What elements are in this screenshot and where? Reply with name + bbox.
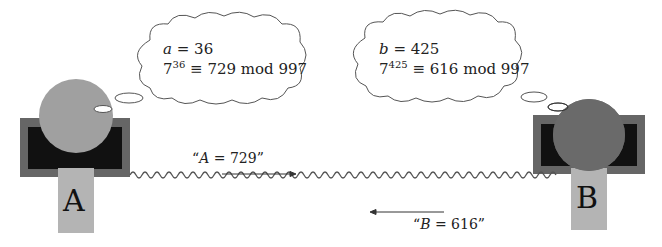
alice-label: A: [63, 183, 85, 218]
bob-secret-value: 425: [411, 40, 440, 58]
alice-base: 7: [163, 60, 173, 78]
message-eq: =: [430, 216, 451, 232]
alice-secret-var: a: [163, 40, 172, 58]
bob-secret-line: b = 425: [379, 40, 439, 59]
alice-result: 729: [207, 60, 236, 78]
bob-modulus: mod 997: [463, 60, 529, 78]
quote-close: ”: [257, 150, 264, 166]
alice-head: [39, 79, 113, 153]
message-var: B: [420, 216, 430, 232]
bob-result: 616: [430, 60, 459, 78]
message-var: A: [199, 150, 209, 166]
alice-secret-value: 36: [194, 40, 213, 58]
communication-channel-wave: [130, 172, 556, 178]
message-value: 729: [230, 150, 257, 166]
alice-exponent: 36: [173, 59, 186, 70]
bob-computation-line: 7425 ≡ 616 mod 997: [379, 60, 529, 79]
arrow-left-icon: [370, 210, 444, 215]
bob-thought-bubble-large: [521, 92, 547, 102]
alice-modulus: mod 997: [241, 60, 307, 78]
bob-exponent: 425: [389, 59, 408, 70]
quote-close: ”: [478, 216, 485, 232]
bob-base: 7: [379, 60, 389, 78]
alice-secret-line: a = 36: [163, 40, 213, 59]
diagram-graphics: [0, 0, 662, 247]
alice-thought-bubble-small: [94, 106, 112, 113]
bob-label: B: [576, 180, 598, 215]
bob-congruent: ≡: [412, 60, 425, 78]
message-eq: =: [209, 150, 230, 166]
alice-thought-bubble-large: [115, 93, 143, 103]
message-b-to-a: “B = 616”: [413, 216, 485, 232]
bob-secret-var: b: [379, 40, 389, 58]
message-a-to-b: “A = 729”: [192, 150, 264, 166]
alice-equals: =: [177, 40, 190, 58]
alice-congruent: ≡: [190, 60, 203, 78]
message-value: 616: [451, 216, 478, 232]
bob-equals: =: [393, 40, 406, 58]
diffie-hellman-diagram: a = 36 736 ≡ 729 mod 997 b = 425 7425 ≡ …: [0, 0, 662, 247]
alice-computation-line: 736 ≡ 729 mod 997: [163, 60, 307, 79]
